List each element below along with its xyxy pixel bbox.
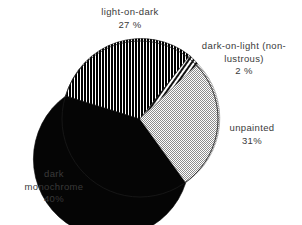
pie-label-unpainted: unpainted 31%: [206, 122, 298, 147]
pie-label-dark-on-light-text-1: dark-on-light (non-: [186, 40, 302, 53]
pie-label-dark-monochrome-text-2: monochrome: [2, 181, 106, 194]
pie-label-light-on-dark: light-on-dark 27 %: [66, 6, 194, 31]
pie-chart-figure: light-on-dark 27 % dark-on-light (non- l…: [0, 0, 302, 225]
pie-label-dark-monochrome-text-1: dark: [2, 168, 106, 181]
pie-label-dark-on-light-text-2: lustrous): [186, 53, 302, 66]
pie-label-dark-on-light-value: 2 %: [186, 65, 302, 78]
pie-label-dark-monochrome-value: 40%: [2, 193, 106, 206]
pie-label-light-on-dark-text: light-on-dark: [66, 6, 194, 19]
pie-label-dark-monochrome: dark monochrome 40%: [2, 168, 106, 206]
pie-label-light-on-dark-value: 27 %: [66, 19, 194, 32]
pie-label-unpainted-text: unpainted: [206, 122, 298, 135]
pie-label-dark-on-light: dark-on-light (non- lustrous) 2 %: [186, 40, 302, 78]
pie-label-unpainted-value: 31%: [206, 135, 298, 148]
